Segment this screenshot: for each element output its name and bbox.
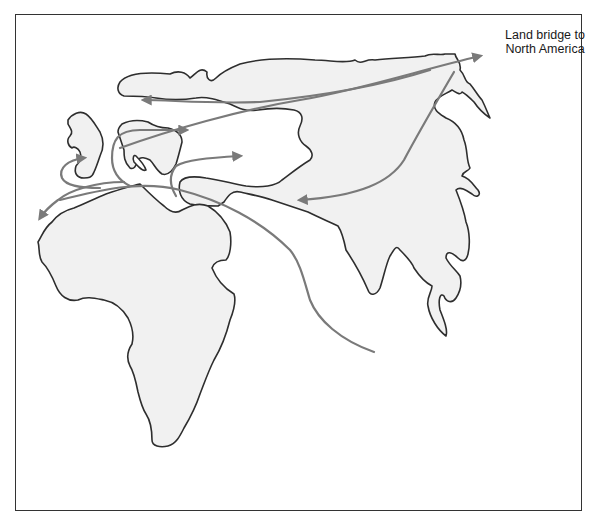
southern-europe-peninsula — [118, 121, 182, 175]
africa-landmass — [38, 184, 235, 447]
migration-map — [0, 0, 596, 524]
land-bridge-label: Land bridge to North America — [495, 28, 595, 56]
british-isles — [68, 112, 103, 178]
